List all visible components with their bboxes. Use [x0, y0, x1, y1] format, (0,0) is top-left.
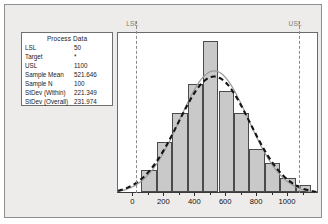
x-axis-tick-label: 400	[188, 197, 201, 207]
x-axis-minor-tick	[179, 193, 180, 195]
x-axis-minor-tick	[148, 193, 149, 195]
x-axis-tick	[256, 193, 257, 196]
screenshot-root: Process Data LSL50Target*USL1100Sample M…	[0, 0, 328, 224]
process-data-value: 221.349	[74, 88, 112, 97]
histogram-bar	[172, 113, 187, 192]
x-axis-minor-tick	[303, 193, 304, 195]
process-data-value: 231.974	[74, 97, 112, 106]
x-axis-minor-tick	[241, 193, 242, 195]
lsl-spec-line	[136, 21, 137, 193]
x-axis-tick-label: 1000	[279, 197, 296, 207]
histogram-bar	[157, 142, 172, 192]
histogram-bar	[219, 91, 234, 192]
histogram-bar	[203, 41, 218, 192]
process-data-row: Sample Mean521.646	[22, 70, 112, 79]
process-data-value: 100	[74, 79, 112, 88]
lsl-spec-label: LSL	[126, 20, 138, 28]
process-data-row: LSL50	[22, 43, 112, 52]
x-axis-tick-label: 600	[219, 197, 232, 207]
process-data-label: Sample Mean	[25, 70, 74, 79]
process-data-rows: LSL50Target*USL1100Sample Mean521.646Sam…	[22, 43, 112, 106]
process-data-row: Sample N100	[22, 79, 112, 88]
process-data-label: Sample N	[25, 79, 74, 88]
process-data-title: Process Data	[22, 34, 112, 43]
x-axis-tick-label: 0	[130, 197, 134, 207]
histogram-bar	[141, 170, 156, 192]
histogram-bar	[188, 84, 203, 192]
process-data-table: Process Data LSL50Target*USL1100Sample M…	[21, 32, 113, 106]
x-axis-tick	[163, 193, 164, 196]
process-data-row: StDev (Within)221.349	[22, 88, 112, 97]
usl-spec-label: USL	[289, 20, 302, 28]
usl-spec-line	[299, 21, 300, 193]
histogram-bar	[249, 149, 264, 192]
x-axis: 02004006008001000	[117, 193, 318, 215]
process-data-label: StDev (Within)	[25, 88, 74, 97]
process-data-label: StDev (Overall)	[25, 97, 74, 106]
x-axis-minor-tick	[210, 193, 211, 195]
process-data-value: 1100	[74, 61, 112, 70]
process-data-label: LSL	[25, 43, 74, 52]
histogram-bar	[280, 178, 295, 192]
x-axis-tick	[132, 193, 133, 196]
x-axis-tick	[225, 193, 226, 196]
process-data-row: StDev (Overall)231.974	[22, 97, 112, 106]
plot-inner	[118, 33, 317, 192]
x-axis-tick	[287, 193, 288, 196]
process-data-label: USL	[25, 61, 74, 70]
histogram-plot	[117, 32, 318, 193]
histogram-bar	[265, 163, 280, 192]
x-axis-tick	[194, 193, 195, 196]
process-data-value: 521.646	[74, 70, 112, 79]
process-data-value: 50	[74, 43, 112, 52]
process-data-row: USL1100	[22, 61, 112, 70]
x-axis-tick-label: 200	[157, 197, 170, 207]
histogram-bar	[234, 113, 249, 192]
process-data-row: Target*	[22, 52, 112, 61]
x-axis-tick-label: 800	[250, 197, 263, 207]
process-data-value: *	[74, 52, 112, 61]
chart-panel: Process Data LSL50Target*USL1100Sample M…	[4, 4, 322, 218]
process-data-label: Target	[25, 52, 74, 61]
x-axis-minor-tick	[272, 193, 273, 195]
